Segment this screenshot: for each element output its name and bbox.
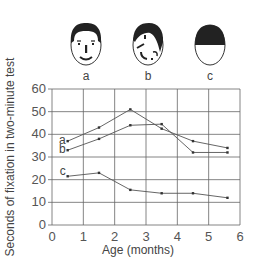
data-point	[129, 189, 131, 191]
data-point	[160, 192, 162, 194]
face-c-label: c	[207, 69, 213, 83]
x-tick-label: 4	[174, 229, 181, 244]
y-tick-label: 20	[32, 172, 46, 187]
data-point	[192, 140, 194, 142]
face-b-icon	[133, 23, 163, 65]
fixation-chart: a b c 0102030405060 0123456 abc Age (mon…	[0, 0, 255, 278]
x-tick-label: 5	[205, 229, 212, 244]
data-point	[129, 124, 131, 126]
data-point	[98, 126, 100, 128]
data-point	[98, 172, 100, 174]
series-line-a	[68, 109, 228, 148]
data-point	[66, 149, 68, 151]
data-point	[226, 151, 228, 153]
face-c-icon	[195, 25, 225, 65]
data-point	[160, 123, 162, 125]
x-tick-label: 3	[142, 229, 149, 244]
x-tick-label: 1	[80, 229, 87, 244]
grid	[48, 89, 240, 225]
y-tick-label: 60	[32, 81, 46, 96]
data-point	[66, 175, 68, 177]
face-b-label: b	[145, 69, 152, 83]
data-point	[226, 147, 228, 149]
y-tick-label: 10	[32, 194, 46, 209]
x-tick-label: 0	[48, 229, 55, 244]
series-line-b	[68, 124, 228, 152]
face-a-label: a	[83, 69, 90, 83]
y-axis-title: Seconds of fixation in two-minute test	[3, 57, 17, 256]
x-axis-title: Age (months)	[102, 243, 174, 257]
data-point	[192, 151, 194, 153]
y-tick-label: 40	[32, 126, 46, 141]
data-point	[160, 127, 162, 129]
data-point	[98, 138, 100, 140]
data-point	[66, 140, 68, 142]
data-series: abc	[59, 108, 229, 199]
data-point	[226, 197, 228, 199]
y-tick-label: 30	[32, 149, 46, 164]
x-axis-ticks: 0123456	[48, 229, 243, 244]
x-tick-label: 6	[236, 229, 243, 244]
face-a-icon	[71, 23, 101, 65]
series-label-b: b	[59, 142, 66, 156]
y-tick-label: 0	[39, 217, 46, 232]
series-label-c: c	[60, 164, 66, 178]
y-axis-ticks: 0102030405060	[32, 81, 46, 232]
x-tick-label: 2	[111, 229, 118, 244]
series-line-c	[68, 173, 228, 198]
data-point	[129, 108, 131, 110]
data-point	[192, 192, 194, 194]
y-tick-label: 50	[32, 104, 46, 119]
